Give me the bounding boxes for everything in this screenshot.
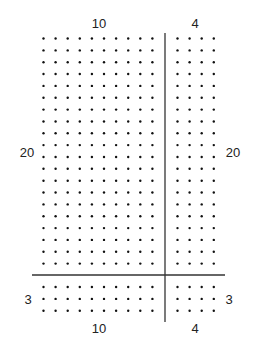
dot [67, 239, 69, 241]
dot [188, 262, 190, 264]
dot [115, 286, 117, 288]
dot [201, 37, 203, 39]
dot [103, 120, 105, 122]
dot [139, 262, 141, 264]
dot [151, 310, 153, 312]
dot [201, 97, 203, 99]
dot [176, 262, 178, 264]
dot [103, 49, 105, 51]
dot [115, 168, 117, 170]
dot [127, 108, 129, 110]
dot [42, 132, 44, 134]
dot [67, 227, 69, 229]
dot [188, 144, 190, 146]
dot [139, 108, 141, 110]
dot [79, 286, 81, 288]
dot [54, 37, 56, 39]
dot [139, 168, 141, 170]
dot [188, 168, 190, 170]
dot [176, 97, 178, 99]
dot [127, 262, 129, 264]
dot [213, 286, 215, 288]
dot [42, 144, 44, 146]
dot [127, 168, 129, 170]
dot [67, 262, 69, 264]
dot [103, 239, 105, 241]
dot [67, 132, 69, 134]
dot [115, 132, 117, 134]
dot [79, 108, 81, 110]
dot [188, 61, 190, 63]
dot [201, 286, 203, 288]
dot [127, 120, 129, 122]
dot [188, 73, 190, 75]
dot [103, 298, 105, 300]
dot [201, 180, 203, 182]
dot [103, 227, 105, 229]
dot [151, 120, 153, 122]
dot [201, 156, 203, 158]
dot [139, 203, 141, 205]
dot [67, 298, 69, 300]
dot [127, 286, 129, 288]
dot [188, 49, 190, 51]
dot [67, 85, 69, 87]
dot [127, 227, 129, 229]
dot [188, 251, 190, 253]
dot [151, 286, 153, 288]
dot [139, 180, 141, 182]
dot [176, 251, 178, 253]
dot [188, 203, 190, 205]
dot [91, 251, 93, 253]
dot [201, 262, 203, 264]
dot [103, 144, 105, 146]
dot [127, 132, 129, 134]
dot [213, 144, 215, 146]
dot [54, 132, 56, 134]
dot [115, 191, 117, 193]
dot [127, 73, 129, 75]
dot [139, 215, 141, 217]
dot [54, 215, 56, 217]
dot [103, 108, 105, 110]
dot [127, 251, 129, 253]
dot [42, 61, 44, 63]
dot [54, 286, 56, 288]
dot [151, 180, 153, 182]
dot [103, 203, 105, 205]
left-bottom-rows-label: 3 [24, 293, 31, 306]
dot [91, 132, 93, 134]
dot [213, 227, 215, 229]
dot [176, 144, 178, 146]
dot [79, 85, 81, 87]
dot [115, 227, 117, 229]
dot [176, 168, 178, 170]
dot [79, 180, 81, 182]
dot [127, 180, 129, 182]
dot [188, 120, 190, 122]
dot-array-canvas [0, 0, 255, 355]
dot [79, 144, 81, 146]
dot [139, 49, 141, 51]
dot [103, 251, 105, 253]
dot [42, 203, 44, 205]
dot [115, 251, 117, 253]
dot [188, 298, 190, 300]
dot [67, 168, 69, 170]
dot [54, 85, 56, 87]
dot [213, 156, 215, 158]
dot [115, 108, 117, 110]
dot [188, 108, 190, 110]
dot [127, 298, 129, 300]
dot [79, 310, 81, 312]
dot [213, 215, 215, 217]
dot [188, 180, 190, 182]
dot [91, 239, 93, 241]
dot [176, 73, 178, 75]
dot [176, 61, 178, 63]
dot [213, 310, 215, 312]
dot [91, 49, 93, 51]
dot [91, 203, 93, 205]
dot [91, 73, 93, 75]
dot [91, 120, 93, 122]
